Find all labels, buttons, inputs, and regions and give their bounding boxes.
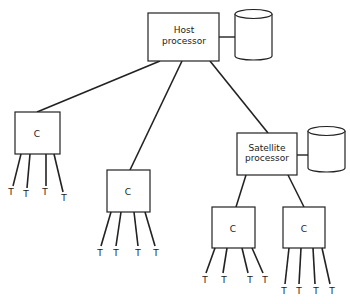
terminal-link	[206, 248, 215, 273]
satellite-processor-node: Satellite processor	[237, 127, 345, 176]
controller-satellite-left-label: C	[230, 224, 236, 234]
controller-satellite-left-node: C T T T T	[201, 207, 268, 285]
controller-satellite-right-node: C T T T T	[280, 207, 335, 296]
satellite-label-line1: Satellite	[249, 143, 286, 153]
terminal-link	[242, 248, 248, 273]
terminal-label: T	[246, 275, 253, 285]
terminal-link	[313, 248, 315, 284]
terminal-label: T	[261, 275, 268, 285]
terminal-label: T	[96, 248, 103, 258]
terminal-link	[299, 248, 301, 284]
terminal-label: T	[7, 187, 14, 197]
satellite-label-line2: processor	[245, 153, 289, 163]
terminal-link	[145, 212, 155, 246]
terminal-label: T	[280, 286, 287, 296]
edge-satellite-controller-right	[288, 175, 304, 207]
terminal-label: T	[41, 187, 48, 197]
controller-middle-node: C T T T T	[96, 170, 159, 258]
system-diagram: Host processor C T T T T C T	[0, 0, 350, 304]
host-label-line1: Host	[174, 25, 195, 35]
edge-satellite-controller-left	[236, 175, 246, 207]
terminal-link	[322, 248, 330, 284]
terminal-link	[13, 154, 21, 186]
edge-host-controller-left	[37, 61, 160, 112]
terminal-link	[223, 248, 227, 273]
terminal-label: T	[22, 189, 29, 199]
edge-host-satellite	[210, 61, 268, 133]
controller-middle-label: C	[125, 187, 131, 197]
terminal-label: T	[134, 248, 141, 258]
controller-left-node: C T T T T	[7, 112, 67, 203]
edge-host-controller-middle	[130, 61, 182, 170]
terminal-label: T	[112, 248, 119, 258]
terminal-label: T	[312, 286, 319, 296]
terminal-link	[134, 212, 138, 246]
terminal-link	[116, 212, 121, 246]
host-label-line2: processor	[162, 36, 206, 46]
terminal-label: T	[60, 193, 67, 203]
terminal-label: T	[220, 275, 227, 285]
terminal-label: T	[152, 248, 159, 258]
host-disk-icon	[235, 10, 272, 61]
controller-satellite-right-label: C	[301, 224, 307, 234]
satellite-disk-icon	[308, 127, 345, 173]
controller-left-label: C	[34, 129, 40, 139]
terminal-label: T	[295, 286, 302, 296]
terminal-link	[54, 154, 63, 192]
terminal-link	[27, 154, 30, 188]
terminal-label: T	[201, 275, 208, 285]
terminal-link	[101, 212, 111, 246]
terminal-link	[285, 248, 289, 284]
terminal-label: T	[328, 286, 335, 296]
host-processor-node: Host processor	[148, 10, 272, 62]
terminal-link	[252, 248, 263, 273]
